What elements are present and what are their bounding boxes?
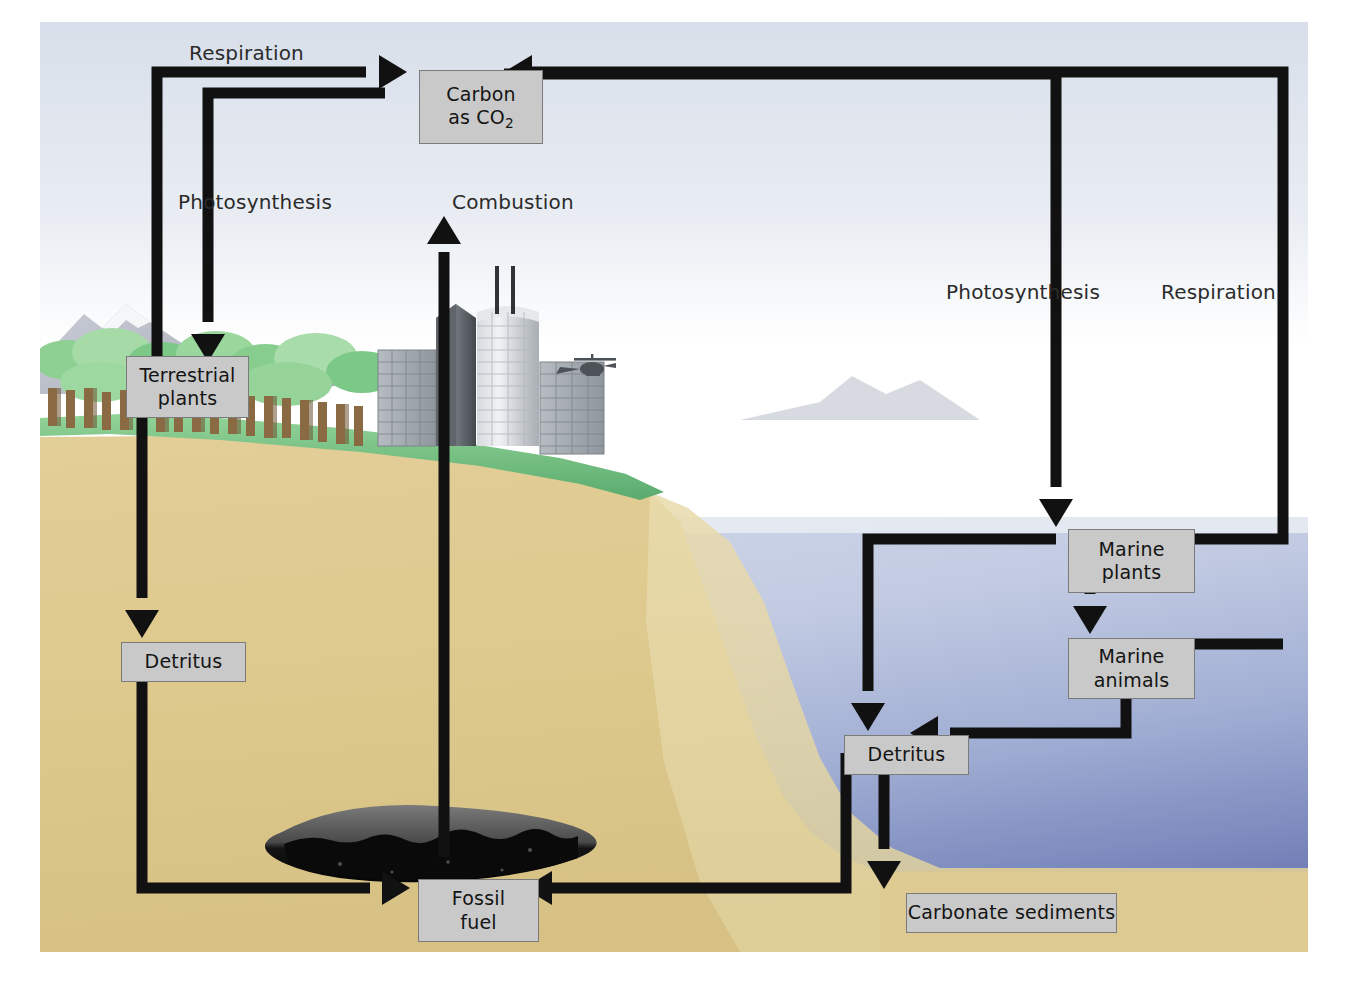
flow-terrestrial-plants-to-carbon: [157, 72, 366, 374]
node-carbonate-sediments-label: Carbonate sediments: [908, 901, 1116, 924]
node-terrestrial-plants[interactable]: Terrestrial plants: [126, 356, 249, 418]
node-carbon-co2-subscript: 2: [505, 115, 514, 131]
node-fossil-fuel[interactable]: Fossil fuel: [418, 879, 539, 942]
flow-label-respiration-land: Respiration: [189, 41, 304, 65]
node-marine-plants[interactable]: Marine plants: [1068, 529, 1195, 593]
flow-label-photosynthesis-land: Photosynthesis: [178, 190, 332, 214]
node-marine-animals[interactable]: Marine animals: [1068, 638, 1195, 699]
node-detritus-land-label: Detritus: [145, 650, 223, 673]
flow-detritus-land-to-fossil-fuel: [142, 660, 370, 888]
node-detritus-ocean[interactable]: Detritus: [844, 735, 969, 775]
flow-label-respiration-sea: Respiration: [1161, 280, 1276, 304]
flow-marine-plants-to-detritus: [868, 539, 1056, 691]
node-marine-animals-line1: Marine: [1098, 645, 1164, 667]
node-marine-animals-line2: animals: [1094, 669, 1170, 691]
arrow-heads: [125, 55, 1107, 905]
node-detritus-land[interactable]: Detritus: [121, 642, 246, 682]
node-terrestrial-plants-line1: Terrestrial: [139, 364, 235, 386]
node-terrestrial-plants-line2: plants: [158, 387, 218, 409]
node-fossil-fuel-line1: Fossil: [452, 887, 505, 909]
carbon-cycle-figure: Carbon as CO2 Terrestrial plants Detritu…: [40, 22, 1308, 952]
flow-label-photosynthesis-sea: Photosynthesis: [946, 280, 1100, 304]
page-root: Carbon as CO2 Terrestrial plants Detritu…: [0, 0, 1347, 993]
node-carbonate-sediments[interactable]: Carbonate sediments: [906, 893, 1117, 933]
flow-detritus-ocean-to-fossil-fuel: [540, 753, 846, 888]
node-fossil-fuel-line2: fuel: [460, 911, 497, 933]
node-carbon-co2-line1: Carbon: [446, 83, 516, 105]
node-carbon-co2[interactable]: Carbon as CO2: [419, 70, 543, 144]
node-carbon-co2-line2: as CO: [448, 106, 505, 128]
flow-arrow-layer: [40, 22, 1308, 952]
flow-label-combustion: Combustion: [452, 190, 574, 214]
node-marine-plants-line2: plants: [1102, 561, 1162, 583]
node-marine-plants-line1: Marine: [1098, 538, 1164, 560]
node-detritus-ocean-label: Detritus: [868, 743, 946, 766]
flow-marine-to-carbon: [520, 72, 1283, 539]
